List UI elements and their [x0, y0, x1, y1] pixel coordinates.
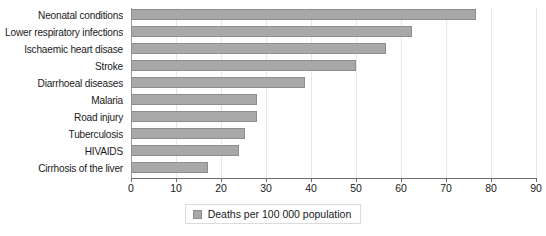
x-tick-label: 20: [206, 182, 236, 194]
bar: [131, 162, 208, 173]
bar-chart: Neonatal conditions Lower respiratory in…: [0, 0, 546, 236]
bar: [131, 77, 305, 88]
category-label: Stroke: [4, 61, 123, 72]
x-tick-label: 30: [251, 182, 281, 194]
legend-swatch-icon: [193, 210, 202, 219]
plot-area: [131, 8, 536, 178]
bar: [131, 43, 386, 54]
category-label: Road injury: [4, 112, 123, 123]
category-label: Neonatal conditions: [4, 10, 123, 21]
bar: [131, 145, 239, 156]
bar: [131, 9, 476, 20]
x-tick-label: 80: [476, 182, 506, 194]
category-label: Diarrhoeal diseases: [4, 78, 123, 89]
x-tick-label: 60: [386, 182, 416, 194]
category-label: Cirrhosis of the liver: [4, 163, 123, 174]
x-axis-ticks: 0 10 20 30 40 50 60 70 80 90: [131, 179, 537, 195]
gridline-70: [446, 8, 447, 178]
gridline-90: [536, 8, 537, 178]
category-label: Ischaemic heart disase: [4, 44, 123, 55]
x-tick-label: 70: [431, 182, 461, 194]
x-tick-label: 40: [296, 182, 326, 194]
category-axis-labels: Neonatal conditions Lower respiratory in…: [0, 8, 127, 178]
bar: [131, 60, 356, 71]
x-tick-label: 10: [161, 182, 191, 194]
category-label: Tuberculosis: [4, 129, 123, 140]
legend-label: Deaths per 100 000 population: [208, 208, 352, 220]
bar: [131, 94, 257, 105]
category-label: Malaria: [4, 95, 123, 106]
x-tick-label: 50: [341, 182, 371, 194]
bar: [131, 111, 257, 122]
legend: Deaths per 100 000 population: [0, 204, 546, 224]
x-tick-label: 90: [521, 182, 546, 194]
gridline-80: [491, 8, 492, 178]
bar: [131, 26, 412, 37]
category-label: Lower respiratory infections: [4, 27, 123, 38]
legend-box: Deaths per 100 000 population: [185, 204, 362, 224]
x-tick-label: 0: [116, 182, 146, 194]
bar: [131, 128, 245, 139]
category-label: HIVAIDS: [4, 146, 123, 157]
